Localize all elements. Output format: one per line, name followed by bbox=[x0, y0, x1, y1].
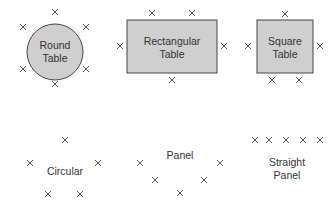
x-mark-icon bbox=[95, 160, 101, 166]
x-mark-icon bbox=[20, 24, 26, 30]
x-mark-icon bbox=[282, 11, 288, 17]
round-table-label-line2: Table bbox=[42, 52, 67, 64]
x-mark-icon bbox=[266, 137, 272, 143]
x-mark-icon bbox=[83, 24, 89, 30]
x-mark-icon bbox=[52, 9, 58, 15]
x-mark-icon bbox=[27, 160, 33, 166]
x-mark-icon bbox=[217, 160, 223, 166]
x-mark-icon bbox=[62, 137, 68, 143]
square-table-label-line2: Table bbox=[272, 48, 297, 60]
x-mark-icon bbox=[169, 77, 175, 83]
x-mark-icon bbox=[152, 177, 158, 183]
x-mark-icon bbox=[201, 177, 207, 183]
x-mark-icon bbox=[20, 66, 26, 72]
x-mark-icon bbox=[245, 43, 251, 49]
seating-arrangement-diagram: Round Table Rectangular Table Square Tab… bbox=[0, 0, 335, 204]
panel-label: Panel bbox=[167, 149, 194, 161]
x-mark-icon bbox=[300, 137, 306, 143]
x-mark-icon bbox=[52, 81, 58, 87]
circular-label: Circular bbox=[47, 165, 84, 177]
x-mark-icon bbox=[83, 66, 89, 72]
x-mark-icon bbox=[252, 137, 258, 143]
straight-panel-label-line1: Straight bbox=[269, 156, 305, 168]
rectangular-table-label-line1: Rectangular bbox=[144, 35, 201, 47]
x-mark-icon bbox=[317, 137, 323, 143]
panel-arrangement: Panel bbox=[137, 149, 223, 196]
square-table-label-line1: Square bbox=[268, 35, 302, 47]
rectangular-table-label-line2: Table bbox=[159, 48, 184, 60]
x-mark-icon bbox=[189, 10, 195, 16]
x-mark-icon bbox=[137, 160, 143, 166]
x-mark-icon bbox=[269, 77, 275, 83]
straight-panel-label-line2: Panel bbox=[274, 169, 301, 181]
square-table: Square Table bbox=[245, 11, 323, 83]
x-mark-icon bbox=[177, 190, 183, 196]
circular-arrangement: Circular bbox=[27, 137, 101, 197]
x-mark-icon bbox=[296, 77, 302, 83]
x-mark-icon bbox=[149, 10, 155, 16]
x-mark-icon bbox=[283, 137, 289, 143]
x-mark-icon bbox=[77, 191, 83, 197]
x-mark-icon bbox=[221, 43, 227, 49]
x-mark-icon bbox=[45, 191, 51, 197]
round-table: Round Table bbox=[20, 9, 89, 87]
round-table-label-line1: Round bbox=[40, 39, 71, 51]
panel-seats bbox=[137, 160, 223, 196]
x-mark-icon bbox=[317, 43, 323, 49]
x-mark-icon bbox=[117, 43, 123, 49]
straight-panel-seats bbox=[252, 137, 323, 143]
rectangular-table: Rectangular Table bbox=[117, 10, 227, 83]
straight-panel-arrangement: Straight Panel bbox=[252, 137, 323, 181]
